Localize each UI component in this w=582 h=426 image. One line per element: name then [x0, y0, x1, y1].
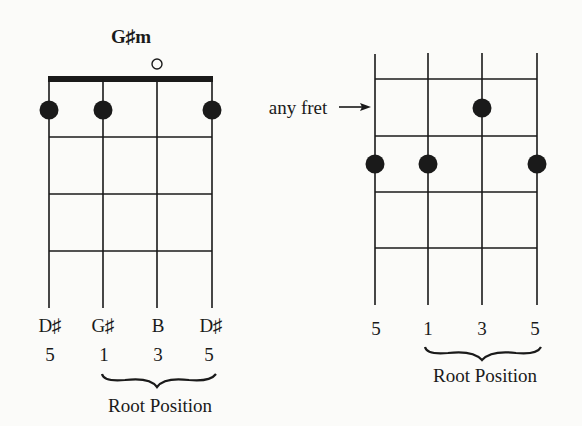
finger-dot	[366, 155, 385, 174]
root-position-label: Root Position	[108, 396, 212, 415]
interval: 3	[477, 319, 487, 338]
interval: 1	[423, 319, 433, 338]
interval: 5	[530, 319, 540, 338]
right-brace	[425, 347, 541, 360]
interval: 5	[204, 345, 214, 364]
right-fretboard	[375, 53, 537, 305]
finger-dot	[203, 101, 222, 120]
left-brace	[102, 374, 216, 387]
root-position-label: Root Position	[433, 366, 537, 385]
finger-dot	[94, 101, 113, 120]
left-finger-dots	[40, 101, 222, 120]
open-string-marker	[152, 59, 162, 69]
chord-title: G♯m	[111, 27, 151, 46]
note-name: D♯	[199, 316, 222, 335]
note-name: B	[152, 316, 165, 335]
chord-diagrams	[0, 0, 582, 426]
interval: 3	[153, 345, 163, 364]
finger-dot	[473, 99, 492, 118]
interval: 5	[45, 345, 55, 364]
finger-dot	[419, 155, 438, 174]
arrow-icon	[339, 103, 371, 111]
nut	[48, 76, 213, 82]
finger-dot	[40, 101, 59, 120]
left-fretboard	[48, 76, 213, 308]
interval: 1	[99, 345, 109, 364]
note-name: G♯	[91, 316, 114, 335]
note-name: D♯	[38, 316, 61, 335]
finger-dot	[528, 155, 547, 174]
interval: 5	[371, 319, 381, 338]
any-fret-label: any fret	[269, 98, 328, 117]
